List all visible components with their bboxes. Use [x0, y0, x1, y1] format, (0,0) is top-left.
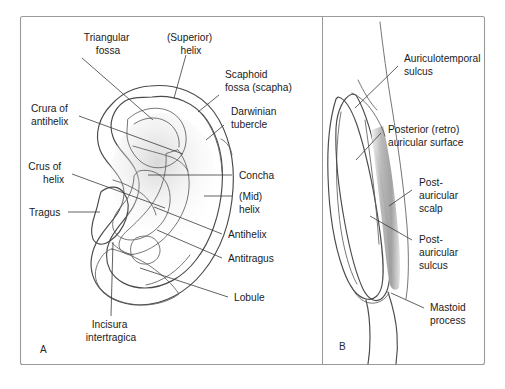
- panel-letter-a: A: [40, 344, 47, 355]
- label-antihelix: Antihelix: [228, 229, 267, 240]
- label-lobule: Lobule: [234, 292, 265, 303]
- ear-anatomy-figure: Triangular fossa (Superior) helix Scapho…: [0, 0, 505, 389]
- label-antitragus: Antitragus: [228, 253, 274, 264]
- figure-canvas: Triangular fossa (Superior) helix Scapho…: [0, 0, 505, 389]
- label-tragus: Tragus: [29, 207, 60, 218]
- panel-letter-b: B: [339, 341, 346, 352]
- label-concha: Concha: [239, 170, 274, 181]
